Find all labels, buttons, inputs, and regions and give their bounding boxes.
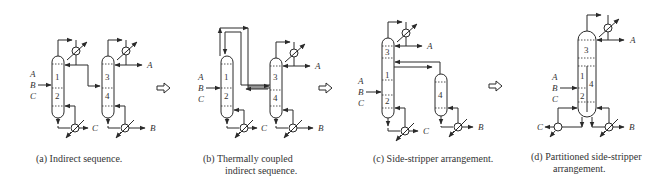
hollow-right-arrow-icon xyxy=(489,81,502,91)
section-3-label: 3 xyxy=(385,47,390,57)
reboiler-icon xyxy=(121,124,129,132)
panel-b-thermally-coupled: 1 2 A B C C 3 4 A xyxy=(197,28,324,138)
product-label-b: B xyxy=(629,122,635,132)
section-4-label: 4 xyxy=(438,90,443,100)
feed-label-a: A xyxy=(197,72,204,82)
reboiler-icon xyxy=(289,124,297,132)
feed-label-c: C xyxy=(30,91,37,101)
feed-label-b: B xyxy=(552,83,558,93)
product-label-c: C xyxy=(92,123,99,133)
section-3-label: 3 xyxy=(273,72,278,82)
section-1-label: 1 xyxy=(55,72,60,82)
caption-b: (b) Thermally coupled indirect sequence. xyxy=(203,153,297,177)
caption-a-line1: (a) Indirect sequence. xyxy=(36,153,122,165)
section-2-label: 2 xyxy=(580,91,585,101)
product-label-b: B xyxy=(150,123,156,133)
column-2 xyxy=(102,56,114,118)
product-label-b: B xyxy=(318,123,324,133)
caption-d: (d) Partitioned side-stripper arrangemen… xyxy=(531,151,642,175)
feed-label-b: B xyxy=(358,87,364,97)
reboiler-icon xyxy=(454,123,462,131)
reboiler-icon xyxy=(240,124,248,132)
product-label-c: C xyxy=(537,122,544,132)
feed-label-c: C xyxy=(198,94,205,104)
section-4-label: 4 xyxy=(273,93,278,103)
caption-d-line2: arrangement. xyxy=(531,163,642,175)
column-1 xyxy=(52,56,64,118)
panel-d-partitioned-side-stripper: 3 1 4 2 A A B C C B xyxy=(537,15,636,137)
column-2 xyxy=(270,58,282,118)
column-1 xyxy=(221,56,233,118)
product-label-a: A xyxy=(146,60,153,70)
caption-b-line1: (b) Thermally coupled xyxy=(203,153,297,165)
product-label-a: A xyxy=(426,41,433,51)
section-1-label: 1 xyxy=(224,72,229,82)
feed-label-c: C xyxy=(358,98,365,108)
panel-c-side-stripper: 3 1 2 A A B C C 4 xyxy=(357,22,484,141)
caption-d-line1: (d) Partitioned side-stripper xyxy=(531,151,642,163)
caption-b-line2: indirect sequence. xyxy=(203,165,297,177)
section-4-label: 4 xyxy=(589,79,594,89)
feed-label-b: B xyxy=(198,83,204,93)
panel-a-indirect-sequence: 1 2 A B C C 3 4 xyxy=(29,40,156,138)
caption-a: (a) Indirect sequence. xyxy=(36,153,122,165)
product-label-c: C xyxy=(261,123,268,133)
product-label-c: C xyxy=(423,126,430,136)
section-2-label: 2 xyxy=(224,91,229,101)
hollow-right-arrow-icon xyxy=(157,83,170,93)
product-label-b: B xyxy=(478,122,484,132)
feed-label-a: A xyxy=(551,72,558,82)
section-2-label: 2 xyxy=(385,96,390,106)
section-2-label: 2 xyxy=(55,91,60,101)
product-label-a: A xyxy=(629,35,636,45)
section-4-label: 4 xyxy=(105,91,110,101)
product-label-a: A xyxy=(314,61,321,71)
reboiler-icon xyxy=(71,124,79,132)
feed-label-b: B xyxy=(30,80,36,90)
feed-label-c: C xyxy=(552,94,559,104)
caption-c-line1: (c) Side-stripper arrangement. xyxy=(373,153,493,165)
section-3-label: 3 xyxy=(584,45,589,55)
reboiler-icon xyxy=(605,123,613,131)
hollow-right-arrow-icon xyxy=(319,83,332,93)
feed-label-a: A xyxy=(357,76,364,86)
section-1-label: 1 xyxy=(580,71,585,81)
caption-c: (c) Side-stripper arrangement. xyxy=(373,153,493,165)
feed-label-a: A xyxy=(29,69,36,79)
reboiler-icon xyxy=(401,127,409,135)
section-3-label: 3 xyxy=(105,72,110,82)
reboiler-icon xyxy=(554,123,562,131)
section-1-label: 1 xyxy=(385,70,390,80)
